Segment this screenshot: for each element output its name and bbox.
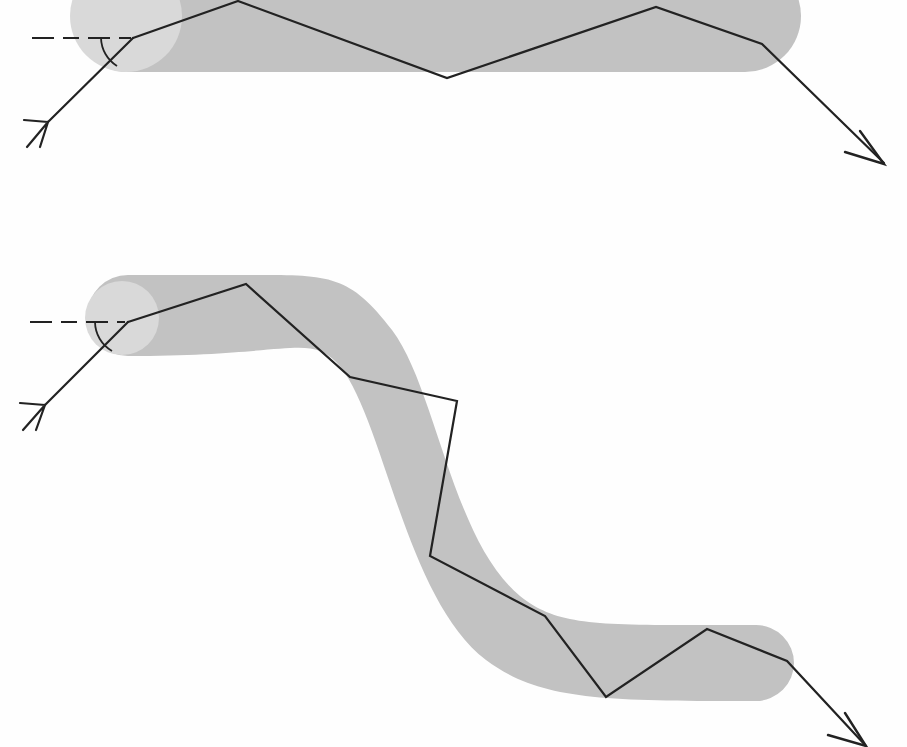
entry-bulb [85, 281, 159, 355]
lower-figure [20, 275, 866, 746]
incoming-ray [45, 322, 128, 405]
diagram-svg [0, 0, 907, 747]
tail-arrowhead-icon [24, 120, 48, 147]
exit-arrowhead-icon [845, 131, 884, 164]
diagram-canvas [0, 0, 907, 747]
tail-arrowhead-icon [20, 403, 45, 430]
upper-figure [24, 0, 884, 164]
